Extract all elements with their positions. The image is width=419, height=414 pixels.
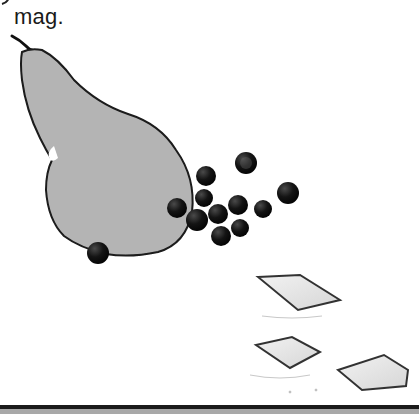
- pear-stem: [12, 36, 32, 50]
- crackers: [256, 275, 408, 390]
- cracker-3: [338, 355, 408, 390]
- cracker-1: [258, 275, 340, 310]
- pear-illustration: [0, 0, 419, 414]
- bottom-strip: [0, 409, 419, 414]
- cracker-2: [256, 337, 320, 368]
- pear-body: [21, 49, 193, 255]
